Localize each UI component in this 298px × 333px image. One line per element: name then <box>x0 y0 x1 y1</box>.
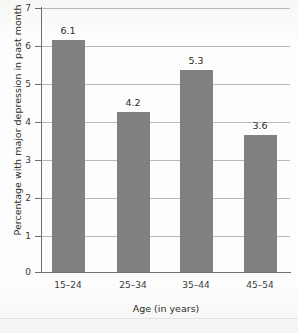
bar-value-label: 4.2 <box>112 98 154 108</box>
bar-25-34[interactable] <box>117 112 150 272</box>
bar-45-54[interactable] <box>244 135 277 272</box>
scan-page-edge-line <box>0 318 298 319</box>
y-axis-title: Percentage with major depression in past… <box>12 36 23 236</box>
x-tick-label-35-44: 35–44 <box>165 281 227 290</box>
x-axis-title: Age (in years) <box>42 303 290 314</box>
bar-chart-figure: 7 6 5 4 3 2 1 0 6.1 4.2 5.3 3.6 15–24 <box>0 0 298 333</box>
bar-value-label: 3.6 <box>239 121 281 131</box>
x-tick-label-45-54: 45–54 <box>229 281 291 290</box>
bar-35-44[interactable] <box>180 70 213 272</box>
bar-value-label: 5.3 <box>175 56 217 66</box>
y-tick-label: 0 <box>5 268 31 277</box>
plot-area: 6.1 4.2 5.3 3.6 <box>42 8 290 272</box>
x-axis-line <box>41 272 291 273</box>
x-tick-label-15-24: 15–24 <box>37 281 99 290</box>
bar-value-label: 6.1 <box>47 26 89 36</box>
x-tick-label-25-34: 25–34 <box>102 281 164 290</box>
bar-15-24[interactable] <box>52 40 85 272</box>
gridline <box>42 8 290 9</box>
